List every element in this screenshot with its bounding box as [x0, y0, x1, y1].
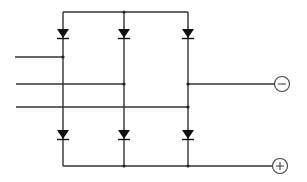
junction-node	[186, 164, 189, 167]
diode-icon	[57, 130, 69, 140]
junction-node	[122, 10, 125, 13]
diode-icon	[118, 130, 130, 140]
junction-node	[122, 82, 125, 85]
negative-terminal-icon	[275, 77, 290, 92]
junction-node	[186, 82, 189, 85]
diode-icon	[182, 29, 194, 39]
junction-node	[186, 105, 189, 108]
diode-icon	[118, 29, 130, 39]
rectifier-diagram	[0, 0, 307, 182]
diode-icon	[182, 130, 194, 140]
diode-icon	[57, 29, 69, 39]
positive-terminal-icon	[273, 159, 288, 174]
junction-node	[61, 55, 64, 58]
junction-node	[122, 164, 125, 167]
